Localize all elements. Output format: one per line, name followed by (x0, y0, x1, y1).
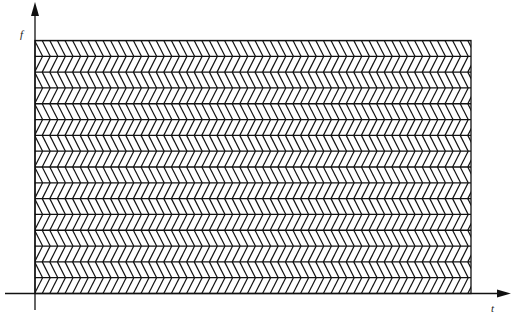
tile-row (27, 246, 476, 262)
tile-row (27, 230, 476, 246)
tile-row (27, 104, 476, 120)
y-axis-label: f (20, 28, 23, 40)
tile-row (27, 151, 476, 167)
tile-row (27, 278, 476, 294)
tile-row (27, 199, 476, 215)
x-axis-label: t (491, 302, 494, 314)
tile-row (27, 88, 476, 104)
tile-row (27, 167, 476, 183)
tile-row (27, 262, 476, 278)
y-axis-arrow-icon (31, 2, 39, 16)
hatched-tiles (27, 41, 476, 294)
time-frequency-diagram (0, 0, 516, 322)
x-axis-arrow-icon (497, 290, 511, 298)
tile-row (27, 120, 476, 136)
tile-row (27, 183, 476, 199)
tile-row (27, 214, 476, 230)
tile-row (27, 56, 476, 72)
tile-row (27, 72, 476, 88)
tile-row (27, 41, 476, 57)
tile-row (27, 135, 476, 151)
